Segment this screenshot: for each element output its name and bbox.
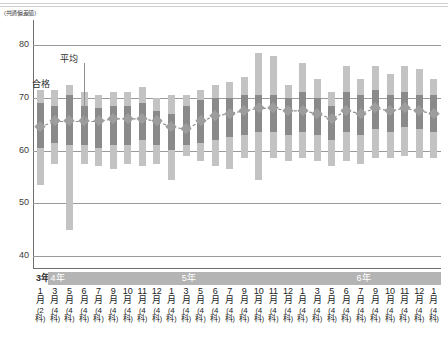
y-tick-40: 40: [3, 250, 29, 260]
x-month-unit: 月: [48, 296, 62, 305]
x-label-col: 11月(4科): [398, 287, 412, 324]
x-label-col: 5月(4科): [62, 287, 76, 324]
x-subject-unit: 科): [135, 315, 149, 323]
y-tick-60: 60: [3, 145, 29, 155]
x-month-unit: 月: [106, 296, 120, 305]
x-subject-unit: 科): [383, 315, 397, 323]
x-month-unit: 月: [310, 296, 324, 305]
x-label-col: 10月(4科): [121, 287, 135, 324]
x-label-col: 3月(4科): [179, 287, 193, 324]
x-subject-unit: 科): [48, 315, 62, 323]
gridline-80: [33, 45, 441, 46]
year-band-5年: 5年: [179, 272, 354, 285]
core-bar: [110, 106, 117, 146]
x-subject-unit: 科): [266, 315, 280, 323]
x-month-unit: 月: [208, 296, 222, 305]
x-subject-unit: 科): [92, 315, 106, 323]
core-bar: [168, 114, 175, 151]
y-axis-unit-label: (共通偏差値): [4, 8, 36, 17]
x-label-col: 5月(4科): [194, 287, 208, 324]
x-label-col: 5月(4科): [325, 287, 339, 324]
x-label-col: 7月(4科): [354, 287, 368, 324]
x-label-col: 12月(4科): [281, 287, 295, 324]
x-month-unit: 月: [150, 296, 164, 305]
x-month-unit: 月: [412, 296, 426, 305]
average-annotation-label: 平均: [60, 52, 78, 65]
x-label-col: 7月(4科): [223, 287, 237, 324]
top-rule-2: [0, 6, 448, 7]
x-label-col: 12月(4科): [412, 287, 426, 324]
year-band-4年: 4年: [48, 272, 179, 285]
x-subject-unit: 科): [427, 315, 441, 323]
gridline-50: [33, 203, 441, 204]
x-label-col: 3月(4科): [310, 287, 324, 324]
x-subject-unit: 科): [33, 315, 47, 323]
x-label-col: 11月(4科): [266, 287, 280, 324]
x-subject-unit: 科): [77, 315, 91, 323]
x-month-unit: 月: [62, 296, 76, 305]
x-month-unit: 月: [398, 296, 412, 305]
x-month-unit: 月: [325, 296, 339, 305]
x-month-unit: 月: [121, 296, 135, 305]
x-subject-unit: 科): [398, 315, 412, 323]
x-month-unit: 月: [194, 296, 208, 305]
x-month-unit: 月: [179, 296, 193, 305]
pass-annotation-label: 合格: [32, 77, 50, 90]
x-label-col: 6月(4科): [77, 287, 91, 324]
year-band-3年: 3年: [33, 272, 48, 285]
x-label-col: 1月(4科): [427, 287, 441, 324]
x-month-unit: 月: [92, 296, 106, 305]
x-label-col: 6月(4科): [339, 287, 353, 324]
x-label-col: 12月(4科): [150, 287, 164, 324]
x-subject-unit: 科): [179, 315, 193, 323]
year-band-6年: 6年: [354, 272, 441, 285]
core-bar: [124, 106, 131, 146]
x-month-unit: 月: [164, 296, 178, 305]
x-label-col: 10月(4科): [383, 287, 397, 324]
x-month-unit: 月: [252, 296, 266, 305]
x-subject-unit: 科): [252, 315, 266, 323]
x-subject-unit: 科): [368, 315, 382, 323]
gridline-40: [33, 256, 441, 257]
x-month-unit: 月: [383, 296, 397, 305]
x-subject-unit: 科): [237, 315, 251, 323]
x-subject-unit: 科): [150, 315, 164, 323]
x-month-unit: 月: [223, 296, 237, 305]
x-subject-unit: 科): [208, 315, 222, 323]
x-subject-unit: 科): [354, 315, 368, 323]
x-subject-unit: 科): [164, 315, 178, 323]
x-label-col: 1月(4科): [296, 287, 310, 324]
x-month-unit: 月: [296, 296, 310, 305]
x-subject-unit: 科): [339, 315, 353, 323]
top-rule-1: [0, 3, 448, 4]
x-month-unit: 月: [354, 296, 368, 305]
x-month-unit: 月: [33, 296, 47, 305]
x-month-unit: 月: [237, 296, 251, 305]
x-axis-line: [33, 268, 441, 269]
serial-deviation-chart: (共通偏差値) 4050607080 合格 平均 3年4年5年6年1月(2科)3…: [0, 0, 448, 339]
x-subject-unit: 科): [194, 315, 208, 323]
x-subject-unit: 科): [106, 315, 120, 323]
y-tick-50: 50: [3, 197, 29, 207]
x-axis-labels: 3年4年5年6年1月(2科)3月(4科)5月(4科)6月(4科)7月(4科)9月…: [33, 272, 441, 339]
y-tick-80: 80: [3, 39, 29, 49]
x-month-unit: 月: [135, 296, 149, 305]
x-month-unit: 月: [266, 296, 280, 305]
core-bar: [270, 95, 277, 132]
x-subject-unit: 科): [62, 315, 76, 323]
x-subject-unit: 科): [310, 315, 324, 323]
average-annotation-leader: [84, 63, 85, 121]
x-label-col: 9月(4科): [237, 287, 251, 324]
x-month-unit: 月: [339, 296, 353, 305]
y-tick-70: 70: [3, 92, 29, 102]
x-subject-unit: 科): [325, 315, 339, 323]
x-label-col: 1月(2科): [33, 287, 47, 324]
x-label-col: 10月(4科): [252, 287, 266, 324]
x-month-unit: 月: [281, 296, 295, 305]
x-label-col: 3月(4科): [48, 287, 62, 324]
x-month-unit: 月: [368, 296, 382, 305]
x-subject-unit: 科): [412, 315, 426, 323]
x-month-unit: 月: [77, 296, 91, 305]
x-label-col: 6月(4科): [208, 287, 222, 324]
x-subject-unit: 科): [296, 315, 310, 323]
